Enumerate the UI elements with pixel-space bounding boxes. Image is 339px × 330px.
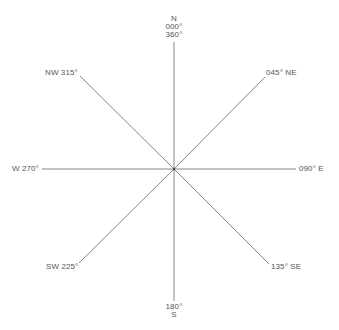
southwest-label: SW 225° [46, 263, 78, 271]
center-point [173, 168, 175, 170]
south-letter-label: S [154, 311, 194, 319]
line-southwest [79, 169, 174, 263]
line-northwest [80, 76, 174, 169]
line-southeast [174, 169, 269, 264]
line-northeast [174, 77, 265, 169]
northeast-label: 045° NE [266, 69, 297, 77]
southeast-label: 135° SE [271, 263, 301, 271]
west-label: W 270° [12, 165, 39, 173]
east-label: 090° E [299, 165, 324, 173]
compass-rose [0, 0, 339, 330]
north-degree-alt-label: 360° [154, 31, 194, 39]
northwest-label: NW 315° [45, 69, 78, 77]
